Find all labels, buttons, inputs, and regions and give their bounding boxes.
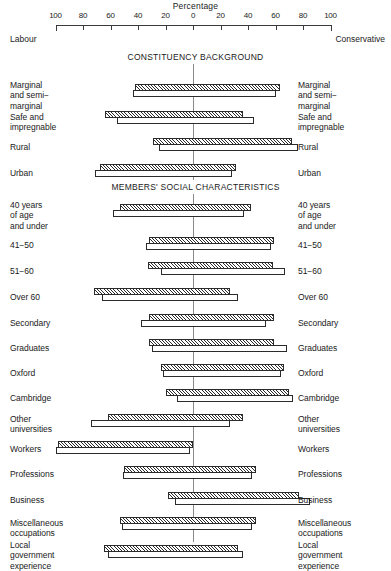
- row-label-left: Rural: [10, 142, 30, 152]
- axis-tick-mark: [248, 25, 249, 30]
- row-label-left: Miscellaneous occupations: [10, 518, 63, 539]
- row-label-left: Workers: [10, 444, 41, 454]
- axis-tick-label: 20: [216, 11, 225, 20]
- axis-tick-label: 60: [106, 11, 115, 20]
- row-label-right: Rural: [298, 142, 318, 152]
- row-label-left: Cambridge: [10, 393, 51, 403]
- bar-open: [163, 370, 281, 377]
- axis-tick-labels: 10080604020020406080100: [0, 11, 391, 21]
- bar-open: [95, 170, 231, 177]
- axis-tick-mark: [193, 25, 194, 30]
- bar-open: [102, 294, 238, 301]
- row-label-right: Oxford: [298, 368, 323, 378]
- row-label-right: Workers: [298, 444, 329, 454]
- row-label-left: Business: [10, 495, 44, 505]
- row-label-left: Marginal and semi− marginal: [10, 80, 49, 111]
- row-label-right: 41−50: [298, 240, 322, 250]
- bar-open: [117, 117, 253, 124]
- axis-tick-mark: [276, 25, 277, 30]
- row-label-right: Marginal and semi− marginal: [298, 80, 337, 111]
- row-label-left: 40 years of age and under: [10, 200, 48, 231]
- row-label-right: Safe and impregnable: [298, 112, 344, 133]
- axis-tick-mark: [83, 25, 84, 30]
- row-label-right: Secondary: [298, 318, 338, 328]
- pole-label-conservative: Conservative: [335, 34, 385, 44]
- axis-tick-mark: [303, 25, 304, 30]
- bar-open: [161, 268, 285, 275]
- axis-tick-mark: [138, 25, 139, 30]
- row-label-right: 51−60: [298, 266, 322, 276]
- row-label-right: Business: [298, 495, 332, 505]
- row-label-right: Professions: [298, 469, 342, 479]
- bar-open: [56, 447, 191, 454]
- axis-tick-label: 80: [79, 11, 88, 20]
- section-heading-members-social-characteristics: MEMBERS' SOCIAL CHARACTERISTICS: [0, 182, 391, 192]
- row-label-right: Cambridge: [298, 393, 339, 403]
- axis-tick-label: 60: [271, 11, 280, 20]
- bar-open: [159, 144, 298, 151]
- row-label-left: Graduates: [10, 343, 49, 353]
- row-label-right: 40 years of age and under: [298, 200, 336, 231]
- row-label-left: Over 60: [10, 292, 40, 302]
- axis-tick-label: 40: [244, 11, 253, 20]
- pole-label-labour: Labour: [10, 34, 36, 44]
- bar-open: [108, 551, 243, 558]
- section-heading-constituency-background: CONSTITUENCY BACKGROUND: [0, 52, 391, 62]
- bar-open: [91, 420, 230, 427]
- row-label-right: Miscellaneous occupations: [298, 518, 351, 539]
- row-label-left: 51−60: [10, 266, 34, 276]
- axis-title: Percentage: [0, 1, 391, 11]
- bar-open: [141, 320, 266, 327]
- row-label-right: Local government experience: [298, 540, 342, 571]
- row-label-left: Other universities: [10, 414, 52, 435]
- bar-open: [175, 498, 310, 505]
- axis-tick-mark: [166, 25, 167, 30]
- row-label-left: Professions: [10, 469, 54, 479]
- axis-tick-label: 20: [161, 11, 170, 20]
- axis-end-cap: [331, 25, 332, 31]
- bar-open: [123, 472, 252, 479]
- row-label-left: Safe and impregnable: [10, 112, 56, 133]
- row-label-left: Secondary: [10, 318, 50, 328]
- axis-tick-label: 100: [49, 11, 62, 20]
- row-label-right: Other universities: [298, 414, 340, 435]
- row-label-left: Oxford: [10, 368, 35, 378]
- axis-tick-label: 0: [191, 11, 195, 20]
- axis-tick-mark: [221, 25, 222, 30]
- row-label-left: 41−50: [10, 240, 34, 250]
- row-label-left: Local government experience: [10, 540, 54, 571]
- bar-open: [122, 523, 253, 530]
- axis-end-cap: [56, 25, 57, 31]
- row-label-right: Over 60: [298, 292, 328, 302]
- row-label-right: Graduates: [298, 343, 337, 353]
- bar-open: [146, 243, 271, 250]
- bar-open: [152, 345, 287, 352]
- axis-tick-mark: [111, 25, 112, 30]
- axis-tick-label: 80: [299, 11, 308, 20]
- row-label-right: Urban: [298, 168, 321, 178]
- axis-tick-label: 100: [324, 11, 337, 20]
- bar-open: [113, 210, 244, 217]
- row-label-left: Urban: [10, 168, 33, 178]
- bar-open: [177, 395, 294, 402]
- axis-tick-label: 40: [134, 11, 143, 20]
- bar-open: [133, 90, 276, 97]
